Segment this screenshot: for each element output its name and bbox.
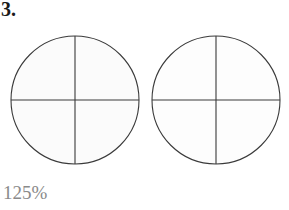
circles-diagram [0,0,289,175]
worksheet-page: 3. 125% [0,0,289,210]
circle-left [11,36,139,164]
zoom-level-label: 125% [3,181,47,205]
figure-group [0,0,289,175]
circle-right [152,36,280,164]
